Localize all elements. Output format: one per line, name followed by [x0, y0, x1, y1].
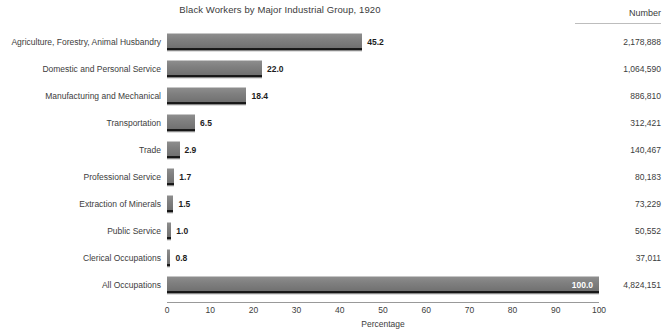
- bar[interactable]: [167, 222, 171, 239]
- bar-wrapper: 18.4: [167, 87, 268, 104]
- bar-value-label: 0.8: [175, 253, 187, 263]
- bar-wrapper: 6.5: [167, 114, 212, 131]
- bar-value-label: 18.4: [251, 91, 268, 101]
- x-tick-label: 10: [205, 305, 214, 315]
- bar-area: 6.5312,421: [167, 109, 669, 136]
- chart-row: Domestic and Personal Service22.01,064,5…: [0, 55, 669, 82]
- category-label: Clerical Occupations: [0, 253, 161, 263]
- bar-value-label: 45.2: [367, 37, 384, 47]
- bar[interactable]: [167, 195, 173, 212]
- bar-area: 1.573,229: [167, 190, 669, 217]
- bar[interactable]: [167, 276, 599, 293]
- bar-value-label: 2.9: [185, 145, 197, 155]
- chart-row: Professional Service1.780,183: [0, 163, 669, 190]
- bar[interactable]: [167, 60, 262, 77]
- bar-wrapper: 22.0: [167, 60, 284, 77]
- x-tick-label: 0: [165, 305, 170, 315]
- x-tick-label: 100: [592, 305, 606, 315]
- row-number-value: 1,064,590: [575, 64, 661, 74]
- category-label: Trade: [0, 145, 161, 155]
- bar-area: 1.050,552: [167, 217, 669, 244]
- row-number-value: 73,229: [575, 199, 661, 209]
- chart-row: Extraction of Minerals1.573,229: [0, 190, 669, 217]
- chart-row: Transportation6.5312,421: [0, 109, 669, 136]
- bar-chart: Black Workers by Major Industrial Group,…: [0, 0, 669, 334]
- category-label: Public Service: [0, 226, 161, 236]
- row-number-value: 2,178,888: [575, 37, 661, 47]
- bar-area: 100.04,824,151: [167, 271, 669, 298]
- row-number-value: 50,552: [575, 226, 661, 236]
- x-tick-label: 60: [421, 305, 430, 315]
- bar[interactable]: [167, 114, 195, 131]
- x-tick-label: 80: [508, 305, 517, 315]
- category-label: Transportation: [0, 118, 161, 128]
- bar-area: 0.837,011: [167, 244, 669, 271]
- number-column-rule: [575, 23, 661, 24]
- bar-value-label: 1.0: [176, 226, 188, 236]
- bar-wrapper: 100.0: [167, 276, 599, 293]
- bar-area: 22.01,064,590: [167, 55, 669, 82]
- row-number-value: 37,011: [575, 253, 661, 263]
- x-tick-label: 20: [249, 305, 258, 315]
- bar-value-label: 22.0: [267, 64, 284, 74]
- chart-row: Agriculture, Forestry, Animal Husbandry4…: [0, 28, 669, 55]
- bar[interactable]: [167, 168, 174, 185]
- bar-value-label: 1.7: [179, 172, 191, 182]
- bar[interactable]: [167, 141, 180, 158]
- chart-row: Trade2.9140,467: [0, 136, 669, 163]
- bar-area: 45.22,178,888: [167, 28, 669, 55]
- row-number-value: 886,810: [575, 91, 661, 101]
- bar-value-label: 6.5: [200, 118, 212, 128]
- x-axis: 0102030405060708090100 Percentage: [167, 302, 599, 332]
- x-axis-line: [167, 302, 599, 303]
- bar-area: 1.780,183: [167, 163, 669, 190]
- bar[interactable]: [167, 249, 170, 266]
- bar-area: 2.9140,467: [167, 136, 669, 163]
- bar-wrapper: 45.2: [167, 33, 384, 50]
- x-tick-label: 90: [551, 305, 560, 315]
- row-number-value: 140,467: [575, 145, 661, 155]
- x-axis-title: Percentage: [167, 319, 599, 329]
- bar-wrapper: 1.0: [167, 222, 188, 239]
- category-label: Manufacturing and Mechanical: [0, 91, 161, 101]
- chart-rows: Agriculture, Forestry, Animal Husbandry4…: [0, 28, 669, 298]
- chart-row: All Occupations100.04,824,151: [0, 271, 669, 298]
- x-tick-label: 70: [465, 305, 474, 315]
- number-column-header: Number: [575, 8, 661, 18]
- chart-row: Clerical Occupations0.837,011: [0, 244, 669, 271]
- category-label: Agriculture, Forestry, Animal Husbandry: [0, 37, 161, 47]
- category-label: Extraction of Minerals: [0, 199, 161, 209]
- category-label: Professional Service: [0, 172, 161, 182]
- bar-wrapper: 0.8: [167, 249, 187, 266]
- category-label: Domestic and Personal Service: [0, 64, 161, 74]
- category-label: All Occupations: [0, 280, 161, 290]
- bar[interactable]: [167, 87, 246, 104]
- bar-value-label: 1.5: [178, 199, 190, 209]
- bar-wrapper: 2.9: [167, 141, 196, 158]
- chart-title: Black Workers by Major Industrial Group,…: [0, 4, 560, 15]
- bar-wrapper: 1.7: [167, 168, 191, 185]
- x-tick-label: 30: [292, 305, 301, 315]
- row-number-value: 312,421: [575, 118, 661, 128]
- x-tick-label: 40: [335, 305, 344, 315]
- bar-wrapper: 1.5: [167, 195, 190, 212]
- bar[interactable]: [167, 33, 362, 50]
- row-number-value: 4,824,151: [575, 280, 661, 290]
- chart-row: Public Service1.050,552: [0, 217, 669, 244]
- x-tick-label: 50: [378, 305, 387, 315]
- chart-row: Manufacturing and Mechanical18.4886,810: [0, 82, 669, 109]
- bar-area: 18.4886,810: [167, 82, 669, 109]
- row-number-value: 80,183: [575, 172, 661, 182]
